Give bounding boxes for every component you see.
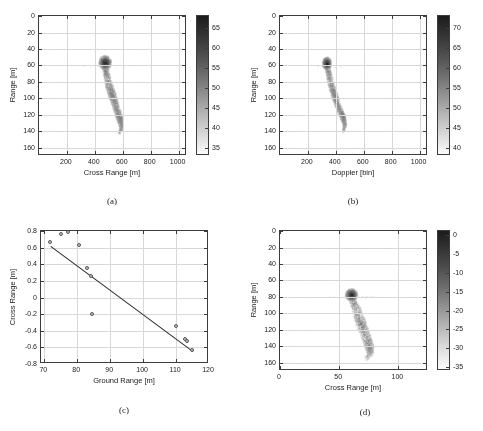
gridline-horizontal [280,82,426,83]
gridline-horizontal [280,49,426,50]
ytick-mark [280,65,283,66]
ytick-mark-right [204,314,207,315]
ytick-mark-right [423,313,426,314]
colorbar-tick-label: -5 [453,249,459,256]
ytick-label: 20 [16,28,35,35]
xtick-label: 1000 [170,158,186,165]
gridline-horizontal [280,330,426,331]
xtick-mark [143,359,144,362]
ytick-label: 80 [257,77,276,84]
gridline-horizontal [280,264,426,265]
xtick-label: 100 [136,366,148,373]
ytick-mark-right [182,49,185,50]
ytick-mark [280,363,283,364]
colorbar-tick-mark [446,148,449,149]
ytick-mark [280,280,283,281]
xtick-mark-top [420,16,421,19]
ytick-mark-right [204,298,207,299]
panel-a-colorbar-gradient [197,16,208,154]
ytick-label: -0.4 [16,326,37,333]
ytick-mark [280,148,283,149]
ytick-mark-right [204,331,207,332]
x-axis-title: Doppler [bin] [332,169,375,177]
xtick-label: 600 [357,158,369,165]
gridline-horizontal [39,131,185,132]
ytick-mark [280,82,283,83]
xtick-label: 0 [277,373,281,380]
ytick-mark [39,33,42,34]
y-axis-title: Range [m] [9,68,17,103]
panel-d-axes [279,230,427,370]
ytick-mark-right [423,131,426,132]
ytick-mark [39,82,42,83]
xtick-mark-top [308,16,309,19]
xtick-mark-top [143,231,144,234]
colorbar-tick-mark [446,254,449,255]
ytick-mark-right [182,115,185,116]
xtick-mark-top [364,16,365,19]
gridline-vertical [339,231,340,369]
ytick-mark [280,297,283,298]
colorbar-tick-label: 45 [453,124,461,131]
ytick-mark-right [204,248,207,249]
gridline-horizontal [41,347,207,348]
panel-d-caption: (d) [360,407,371,417]
y-axis-title: Range [m] [250,68,258,103]
ytick-mark-right [204,347,207,348]
gridline-vertical [336,16,337,154]
ytick-label: 60 [16,61,35,68]
scatter-point [185,339,189,343]
gridline-horizontal [280,131,426,132]
gridline-horizontal [41,331,207,332]
gridline-vertical [179,16,180,154]
ytick-mark-right [204,231,207,232]
ytick-mark [280,231,283,232]
scatter-point [174,324,178,328]
xtick-mark [44,359,45,362]
scatter-point [66,230,70,234]
ytick-mark [280,49,283,50]
gridline-horizontal [41,264,207,265]
xtick-mark [308,151,309,154]
ytick-mark-right [423,280,426,281]
y-axis-title: Cross Range [m] [9,268,17,324]
ytick-mark [41,248,44,249]
xtick-label: 50 [334,373,342,380]
ytick-mark [280,16,283,17]
colorbar-tick-mark [205,88,208,89]
ytick-mark-right [423,330,426,331]
xtick-mark [420,151,421,154]
ytick-mark [39,115,42,116]
xtick-mark [179,151,180,154]
colorbar-tick-mark [205,108,208,109]
gridline-vertical [110,231,111,362]
ytick-label: 0 [257,227,276,234]
ytick-mark [39,16,42,17]
ytick-mark [280,33,283,34]
ytick-mark-right [423,115,426,116]
gridline-horizontal [39,49,185,50]
ytick-mark-right [182,82,185,83]
ytick-mark-right [204,264,207,265]
colorbar-tick-label: 65 [212,24,220,31]
ytick-label: 40 [257,44,276,51]
gridline-vertical [95,16,96,154]
xtick-mark [392,151,393,154]
gridline-vertical [308,16,309,154]
ytick-label: 160 [257,358,276,365]
scatter-point [59,232,63,236]
colorbar-tick-mark [446,88,449,89]
panel-d: (d) 050100020406080100120140160Cross Ran… [241,213,483,431]
xtick-mark-top [67,16,68,19]
ytick-label: -0.6 [16,343,37,350]
colorbar-tick-label: 60 [212,44,220,51]
ytick-mark [39,98,42,99]
scatter-point [48,240,52,244]
ytick-mark-right [423,16,426,17]
colorbar-tick-mark [446,128,449,129]
ytick-label: 20 [257,28,276,35]
gridline-horizontal [280,280,426,281]
gridline-horizontal [39,33,185,34]
panel-b-caption: (b) [348,196,359,206]
ytick-label: 0 [257,12,276,19]
